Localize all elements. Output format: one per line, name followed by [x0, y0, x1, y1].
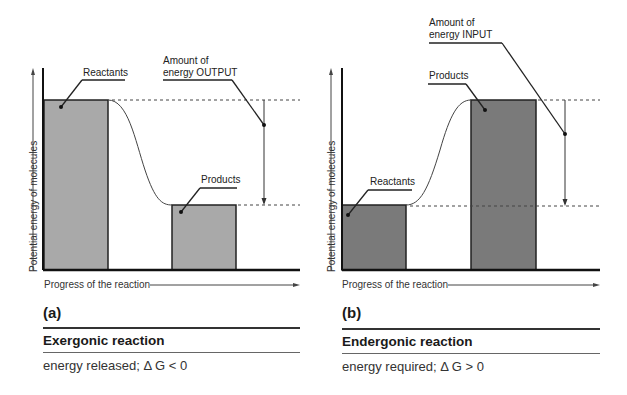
arrow-head-icon	[31, 68, 35, 75]
panel-subtitle-b: energy required; Δ G > 0	[342, 359, 484, 374]
arrow-head-icon	[593, 283, 600, 287]
divider	[43, 352, 300, 353]
arrow-head-icon	[329, 68, 333, 75]
divider	[342, 328, 600, 330]
products-label-b: Products	[429, 70, 468, 81]
panel-a-diagram: Potential energy of molecules Reactants …	[28, 55, 300, 290]
x-axis-label-a: Progress of the reaction	[44, 279, 150, 290]
reactants-label-a: Reactants	[83, 67, 128, 78]
reactants-bar-b	[342, 205, 406, 270]
reactants-bar-a	[44, 100, 108, 270]
panel-subtitle-a: energy released; Δ G < 0	[43, 358, 187, 373]
y-axis-label-a: Potential energy of molecules	[28, 141, 39, 272]
y-axis-label-b: Potential energy of molecules	[326, 141, 337, 272]
arrow-head-icon	[262, 198, 267, 205]
panel-title-b: Endergonic reaction	[342, 334, 473, 349]
panel-title-a: Exergonic reaction	[43, 333, 165, 348]
energy-curve-b	[406, 100, 471, 205]
panel-letter-b: (b)	[342, 304, 361, 321]
arrow-head-icon	[563, 199, 568, 206]
energy-label-line1-b: Amount of	[429, 17, 475, 28]
energy-label-line2-a: energy OUTPUT	[163, 67, 237, 78]
panel-letter-a: (a)	[43, 304, 61, 321]
divider	[43, 327, 300, 329]
divider	[342, 353, 600, 354]
panel-b-diagram: Potential energy of molecules Reactants …	[326, 17, 600, 290]
reactants-label-b: Reactants	[370, 176, 415, 187]
products-label-a: Products	[201, 174, 240, 185]
energy-label-line2-b: energy INPUT	[429, 29, 492, 40]
energy-label-line1-a: Amount of	[163, 55, 209, 66]
products-bar-a	[172, 205, 236, 270]
arrow-head-icon	[293, 283, 300, 287]
products-bar-b	[471, 100, 536, 270]
energy-curve-a	[108, 100, 172, 205]
x-axis-label-b: Progress of the reaction	[342, 279, 448, 290]
